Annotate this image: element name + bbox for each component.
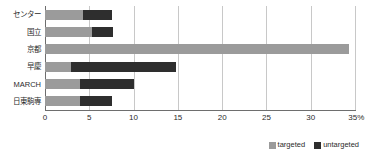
bar-segment-untargeted (71, 62, 176, 72)
bar-segment-untargeted (92, 27, 113, 37)
bar-segment-untargeted (80, 96, 113, 106)
x-tick-label: 15 (173, 112, 182, 123)
bar-segment-targeted (45, 44, 349, 54)
category-label: MARCH (0, 80, 41, 89)
gridline-5 (89, 6, 90, 110)
bar-row (45, 79, 355, 89)
category-label: センター (0, 10, 41, 19)
category-label: 京都 (0, 45, 41, 54)
legend-item[interactable]: targeted (269, 141, 306, 149)
x-tick-label: 0 (43, 112, 47, 123)
gridline-25 (266, 6, 267, 110)
x-axis-tick-labels: 05101520253035% (0, 112, 365, 126)
bar-row (45, 62, 355, 72)
chart-legend: targeteduntargeted (269, 141, 359, 149)
bar-segment-untargeted (80, 79, 134, 89)
legend-label: untargeted (323, 141, 359, 149)
bar-row (45, 10, 355, 20)
gridline-30 (311, 6, 312, 110)
category-label: 早慶 (0, 62, 41, 71)
x-tick-label: 5 (87, 112, 91, 123)
legend-label: targeted (278, 141, 306, 149)
bar-segment-targeted (45, 79, 80, 89)
plot-area (45, 6, 355, 110)
category-label: 国立 (0, 28, 41, 37)
category-axis-labels: センター国立京都早慶MARCH日東駒専 (0, 6, 41, 110)
x-tick-label: 30 (306, 112, 315, 123)
bar-row (45, 27, 355, 37)
legend-swatch-icon (314, 142, 321, 149)
gridline-10 (134, 6, 135, 110)
bar-segment-targeted (45, 27, 92, 37)
x-tick-label: 25 (262, 112, 271, 123)
gridline-0 (45, 6, 46, 110)
gridline-15 (178, 6, 179, 110)
x-tick-label: 35% (348, 112, 364, 123)
gridline-20 (222, 6, 223, 110)
bar-segment-targeted (45, 10, 83, 20)
category-label: 日東駒専 (0, 97, 41, 106)
x-tick-label: 20 (218, 112, 227, 123)
legend-item[interactable]: untargeted (314, 141, 359, 149)
bar-segment-targeted (45, 62, 71, 72)
bar-chart: センター国立京都早慶MARCH日東駒専 05101520253035% targ… (0, 0, 365, 153)
legend-swatch-icon (269, 142, 276, 149)
x-axis-line (45, 110, 356, 111)
bar-row (45, 96, 355, 106)
gridline-35 (355, 6, 356, 110)
bar-row (45, 44, 355, 54)
bar-segment-targeted (45, 96, 80, 106)
bar-segment-untargeted (83, 10, 112, 20)
x-tick-label: 10 (129, 112, 138, 123)
